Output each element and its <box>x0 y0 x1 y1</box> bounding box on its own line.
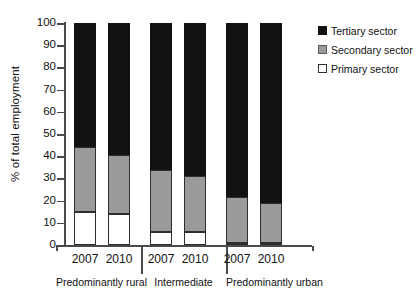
x-axis-year-label: 2010 <box>248 252 294 266</box>
legend-swatch-tertiary-icon <box>318 26 327 35</box>
y-axis-tick <box>57 45 64 47</box>
y-axis-tick <box>57 67 64 69</box>
y-axis-tick-label: 90 <box>30 39 56 51</box>
legend-item-label: Tertiary sector <box>331 25 397 37</box>
bar-segment-primary-sector <box>74 212 96 245</box>
y-axis-tick <box>57 134 64 136</box>
y-axis-tick <box>57 201 64 203</box>
x-axis-group-separator <box>56 246 58 251</box>
bar-intermediate-2010 <box>184 23 206 245</box>
x-axis-group-label: Predominantly rural <box>56 276 141 288</box>
chart-figure: % of total employment 100908070605040302… <box>0 0 419 302</box>
chart-legend: Tertiary sectorSecondary sectorPrimary s… <box>318 22 418 79</box>
y-axis-tick-label: 20 <box>30 195 56 207</box>
legend-item: Secondary sector <box>318 41 418 58</box>
bar-predominantly-rural-2007 <box>74 23 96 245</box>
bar-segment-tertiary-sector <box>108 23 130 155</box>
y-axis-tick-label: 10 <box>30 217 56 229</box>
y-axis-tick-label: 30 <box>30 172 56 184</box>
bar-segment-secondary-sector <box>226 197 248 243</box>
legend-swatch-primary-icon <box>318 64 327 73</box>
y-axis-title: % of total employment <box>2 0 28 248</box>
y-axis-tick-label: 60 <box>30 106 56 118</box>
y-axis-tick <box>57 112 64 114</box>
legend-swatch-secondary-icon <box>318 45 327 54</box>
x-axis-year-label: 2010 <box>96 252 142 266</box>
y-axis-tick <box>57 23 64 25</box>
x-axis-group-separator <box>312 246 314 251</box>
bar-segment-secondary-sector <box>108 155 130 214</box>
bar-intermediate-2007 <box>150 23 172 245</box>
y-axis-tick-labels: 1009080706050403020100 <box>26 0 56 302</box>
bar-segment-primary-sector <box>108 214 130 245</box>
bar-segment-tertiary-sector <box>260 23 282 203</box>
legend-item: Primary sector <box>318 60 418 77</box>
y-axis-title-text: % of total employment <box>9 66 21 182</box>
y-axis-tick-label: 50 <box>30 128 56 140</box>
y-axis-tick-label: 40 <box>30 150 56 162</box>
legend-item-label: Primary sector <box>331 63 399 75</box>
bar-segment-secondary-sector <box>150 170 172 232</box>
y-axis-tick-label: 0 <box>30 239 56 251</box>
y-axis-tick-label: 100 <box>30 17 56 29</box>
x-axis-line <box>56 245 312 247</box>
y-axis-tick-label: 70 <box>30 84 56 96</box>
bar-segment-tertiary-sector <box>150 23 172 170</box>
plot-area <box>64 23 310 245</box>
y-axis-tick <box>57 156 64 158</box>
bar-segment-secondary-sector <box>74 147 96 211</box>
bar-segment-primary-sector <box>150 232 172 245</box>
y-axis-tick <box>57 223 64 225</box>
bar-segment-tertiary-sector <box>226 23 248 197</box>
y-axis-tick-label: 80 <box>30 61 56 73</box>
bar-segment-secondary-sector <box>260 203 282 244</box>
bar-predominantly-urban-2010 <box>260 23 282 245</box>
legend-item-label: Secondary sector <box>331 44 413 56</box>
y-axis-tick <box>57 90 64 92</box>
legend-item: Tertiary sector <box>318 22 418 39</box>
bar-predominantly-rural-2010 <box>108 23 130 245</box>
x-axis-group-label: Predominantly urban <box>226 276 312 288</box>
y-axis-tick <box>57 178 64 180</box>
bar-segment-tertiary-sector <box>74 23 96 147</box>
x-axis-year-label: 2010 <box>172 252 218 266</box>
bar-segment-secondary-sector <box>184 176 206 232</box>
x-axis-group-label: Intermediate <box>141 276 226 288</box>
bar-segment-primary-sector <box>184 232 206 245</box>
bar-predominantly-urban-2007 <box>226 23 248 245</box>
bar-segment-tertiary-sector <box>184 23 206 176</box>
